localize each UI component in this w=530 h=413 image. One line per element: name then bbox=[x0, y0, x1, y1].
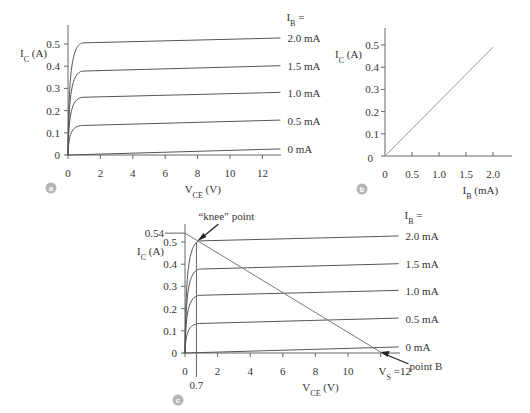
x-axis-label: VCE (V) bbox=[302, 381, 339, 398]
y-tick-label: 0.3 bbox=[46, 82, 60, 94]
y-tick-label: 0 bbox=[172, 347, 178, 359]
legend-entry: 0 mA bbox=[406, 341, 431, 353]
y-tick-label: 0.1 bbox=[46, 127, 60, 139]
x-tick-label: 8 bbox=[195, 167, 201, 179]
legend-entry: 0.5 mA bbox=[287, 115, 320, 127]
legend-entry: 1.5 mA bbox=[287, 60, 320, 72]
x-tick-label: 0.5 bbox=[405, 168, 419, 180]
y-tick-label: 0.5 bbox=[46, 38, 60, 50]
y-tick-label: 0.5 bbox=[365, 39, 379, 51]
x-tick-label: 2 bbox=[215, 365, 221, 377]
x-tick-label: 8 bbox=[313, 365, 319, 377]
pointB-arrow bbox=[385, 354, 409, 364]
figure-canvas: 00.10.20.30.40.50246810122.0 mA1.5 mA1.0… bbox=[0, 0, 530, 413]
x-tick-label: 0 bbox=[182, 365, 188, 377]
ib-curve-15mA bbox=[68, 66, 262, 155]
y-tick-label: 0.5 bbox=[163, 236, 177, 248]
ib-curve-10mA bbox=[185, 291, 381, 353]
transfer-line bbox=[385, 47, 493, 156]
x-axis-label: IB (mA) bbox=[463, 184, 499, 201]
x-tick-label: 0 bbox=[382, 168, 388, 180]
vs-label: VS =12 bbox=[379, 365, 411, 382]
ib-curve-0mA bbox=[68, 149, 262, 155]
legend-entry: 1.0 mA bbox=[406, 285, 439, 297]
x-tick-label: 6 bbox=[162, 167, 168, 179]
y-axis-label: IC (A) bbox=[137, 245, 164, 262]
x-tick-label: 10 bbox=[225, 167, 237, 179]
legend-entry: 1.5 mA bbox=[406, 258, 439, 270]
svg-text:c: c bbox=[176, 396, 181, 405]
panel-a-badge: a bbox=[46, 183, 57, 194]
y-tick-label: 0.3 bbox=[365, 83, 379, 95]
x-tick-label: 2 bbox=[98, 167, 104, 179]
y-tick-label: 0.2 bbox=[46, 105, 60, 117]
ib-curve-15mA bbox=[185, 264, 381, 353]
y-tick-label: 0 bbox=[368, 152, 374, 164]
knee-annotation: “knee” point bbox=[198, 210, 254, 222]
panel-a-plot: 00.10.20.30.40.50246810122.0 mA1.5 mA1.0… bbox=[20, 11, 320, 199]
x-tick-label: 1.0 bbox=[432, 168, 446, 180]
y-tick-label: 0.4 bbox=[46, 60, 60, 72]
load-line bbox=[185, 233, 384, 354]
knee-arrowhead bbox=[197, 233, 206, 241]
y-tick-label: 0.4 bbox=[163, 258, 177, 270]
x-tick-label: 6 bbox=[280, 365, 286, 377]
legend-entry: 2.0 mA bbox=[406, 230, 439, 242]
x-tick-label: 0 bbox=[65, 167, 71, 179]
pointB-annotation: point B bbox=[410, 360, 443, 372]
legend-entry: 1.0 mA bbox=[287, 87, 320, 99]
y-tick-label: 0 bbox=[55, 149, 61, 161]
panel-c-plot: 00.10.20.30.40.502468102.0 mA1.5 mA1.0 m… bbox=[137, 209, 442, 397]
x-axis-label: VCE (V) bbox=[185, 183, 222, 200]
x-tick-label: 4 bbox=[130, 167, 136, 179]
y-tick-label: 0.3 bbox=[163, 280, 177, 292]
y-tick-label: 0.1 bbox=[163, 325, 177, 337]
x-tick-label: 10 bbox=[343, 365, 355, 377]
panel-b-plot: 00.10.20.30.40.500.51.01.52.0IC (A)IB (m… bbox=[335, 28, 512, 201]
x-tick-label: 1.5 bbox=[459, 168, 473, 180]
legend-entry: 2.0 mA bbox=[287, 32, 320, 44]
legend-entry: 0.5 mA bbox=[406, 313, 439, 325]
legend-title: IB = bbox=[405, 209, 423, 226]
y-tick-label: 0.2 bbox=[163, 303, 177, 315]
x-tick-label: 4 bbox=[247, 365, 253, 377]
y-axis-label: IC (A) bbox=[20, 47, 47, 64]
ib-curve-0mA bbox=[185, 347, 381, 353]
y-tick-label: 0.4 bbox=[365, 61, 379, 73]
panel-b-badge: b bbox=[357, 184, 368, 195]
x-tick-label: 12 bbox=[257, 167, 268, 179]
y-axis-label: IC (A) bbox=[335, 48, 362, 65]
y-tick-label-054: 0.54 bbox=[145, 227, 165, 239]
y-tick-label: 0.2 bbox=[365, 106, 379, 118]
svg-text:b: b bbox=[360, 185, 365, 194]
panel-c-badge: c bbox=[173, 395, 184, 406]
legend-entry: 0 mA bbox=[287, 143, 312, 155]
svg-text:a: a bbox=[49, 184, 54, 193]
legend-title: IB = bbox=[286, 11, 304, 28]
x-tick-label: 2.0 bbox=[486, 168, 500, 180]
x-tick-label-07: 0.7 bbox=[190, 379, 204, 391]
ib-curve-10mA bbox=[68, 93, 262, 155]
y-tick-label: 0.1 bbox=[365, 128, 379, 140]
